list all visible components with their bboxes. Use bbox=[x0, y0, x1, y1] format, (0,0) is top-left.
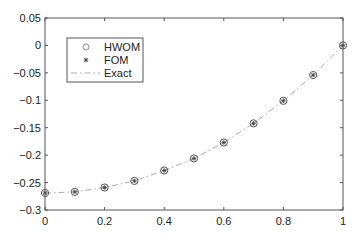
fom-marker-asterisk bbox=[311, 73, 316, 78]
y-tick-label: 0 bbox=[35, 39, 41, 51]
y-tick-label: −0.25 bbox=[13, 177, 41, 189]
legend: HWOMFOMExact bbox=[67, 38, 143, 82]
fom-marker-asterisk bbox=[73, 190, 78, 195]
fom-marker-asterisk bbox=[102, 185, 107, 190]
y-tick-label: 0.05 bbox=[20, 12, 41, 24]
x-tick-label: 1 bbox=[340, 215, 346, 227]
y-tick-label: −0.3 bbox=[19, 204, 41, 216]
fom-marker-asterisk bbox=[132, 179, 137, 184]
x-tick-label: 0.2 bbox=[97, 215, 112, 227]
y-tick-label: −0.2 bbox=[19, 149, 41, 161]
fom-marker-asterisk bbox=[222, 140, 227, 145]
legend-label-exact: Exact bbox=[104, 67, 132, 79]
y-tick-label: −0.15 bbox=[13, 122, 41, 134]
fom-marker-asterisk bbox=[162, 168, 167, 173]
x-tick-label: 0 bbox=[42, 215, 48, 227]
y-tick-label: −0.05 bbox=[13, 67, 41, 79]
legend-label-hwom: HWOM bbox=[104, 41, 140, 53]
y-tick-label: −0.1 bbox=[19, 94, 41, 106]
fom-marker-asterisk bbox=[192, 156, 197, 161]
x-tick-label: 0.8 bbox=[276, 215, 291, 227]
x-tick-label: 0.4 bbox=[157, 215, 172, 227]
chart: 00.20.40.60.81 0.050−0.05−0.1−0.15−0.2−0… bbox=[0, 0, 357, 238]
fom-marker-asterisk bbox=[251, 121, 256, 126]
x-tick-label: 0.6 bbox=[216, 215, 231, 227]
fom-marker-asterisk bbox=[281, 99, 286, 104]
legend-fom-asterisk-icon bbox=[84, 58, 89, 63]
legend-label-fom: FOM bbox=[104, 54, 128, 66]
